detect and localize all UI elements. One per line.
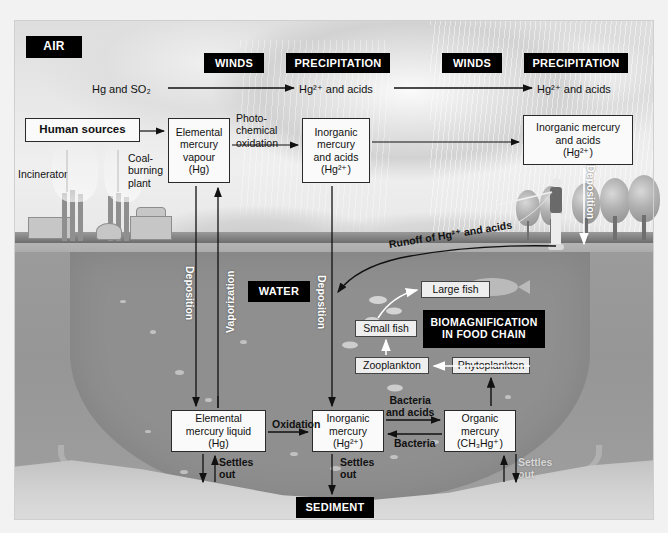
image-frame: [14, 20, 654, 520]
mercury-cycle-diagram: AIR WINDS PRECIPITATION WINDS PRECIPITAT…: [0, 0, 668, 533]
cut-off-caption: [300, 0, 600, 10]
